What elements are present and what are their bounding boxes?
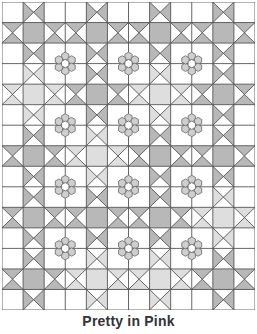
- star-point-bottom: [234, 218, 255, 228]
- star-point-left: [213, 43, 224, 64]
- star-point-top: [129, 23, 150, 33]
- star-point-top: [234, 146, 255, 156]
- star-point-top: [171, 84, 192, 94]
- star-point-left: [23, 125, 34, 146]
- star-point-right: [160, 64, 171, 85]
- sash-intersection-square: [23, 269, 44, 290]
- star-point-left: [150, 64, 161, 85]
- star-point-right: [223, 187, 234, 208]
- star-point-top: [44, 84, 65, 94]
- star-point-bottom: [2, 156, 23, 166]
- star-point-right: [97, 228, 108, 249]
- star-point-top: [65, 84, 86, 94]
- sash-intersection-square: [86, 269, 107, 290]
- hexagon-flower-center: [125, 59, 132, 67]
- star-point-bottom: [129, 218, 150, 228]
- hexagon-flower-center: [62, 244, 69, 252]
- star-point-left: [213, 228, 224, 249]
- star-point-right: [160, 125, 171, 146]
- star-point-top: [129, 269, 150, 279]
- star-point-bottom: [129, 156, 150, 166]
- star-point-left: [86, 43, 97, 64]
- star-point-right: [160, 289, 171, 310]
- hexagon-flower-center: [125, 183, 132, 191]
- star-point-left: [150, 43, 161, 64]
- star-point-top: [171, 207, 192, 217]
- star-point-bottom: [171, 94, 192, 104]
- star-point-top: [192, 84, 213, 94]
- sash-intersection-square: [86, 146, 107, 167]
- star-point-top: [2, 23, 23, 33]
- star-point-left: [86, 248, 97, 269]
- star-point-left: [23, 289, 34, 310]
- star-point-right: [160, 166, 171, 187]
- star-point-right: [97, 248, 108, 269]
- star-point-bottom: [2, 94, 23, 104]
- star-point-bottom: [65, 33, 86, 43]
- star-point-left: [213, 2, 224, 23]
- sash-intersection-square: [23, 207, 44, 228]
- star-point-left: [23, 248, 34, 269]
- star-point-right: [223, 2, 234, 23]
- star-point-top: [107, 23, 128, 33]
- star-point-bottom: [192, 94, 213, 104]
- star-point-left: [213, 248, 224, 269]
- star-point-left: [86, 289, 97, 310]
- hexagon-flower-center: [125, 121, 132, 129]
- sash-intersection-square: [150, 84, 171, 105]
- sash-intersection-square: [23, 84, 44, 105]
- sash-intersection-square: [150, 207, 171, 228]
- star-point-left: [150, 166, 161, 187]
- star-point-top: [129, 207, 150, 217]
- quilt-grid: [2, 2, 255, 310]
- star-point-top: [2, 269, 23, 279]
- star-point-right: [223, 105, 234, 126]
- star-point-bottom: [44, 94, 65, 104]
- star-point-bottom: [171, 33, 192, 43]
- star-point-top: [44, 207, 65, 217]
- star-point-bottom: [192, 33, 213, 43]
- star-point-right: [160, 2, 171, 23]
- star-point-left: [86, 125, 97, 146]
- star-point-top: [192, 207, 213, 217]
- star-point-right: [34, 125, 45, 146]
- star-point-left: [86, 187, 97, 208]
- star-point-right: [97, 166, 108, 187]
- star-point-right: [97, 64, 108, 85]
- star-point-right: [34, 166, 45, 187]
- star-point-left: [23, 2, 34, 23]
- star-point-right: [34, 43, 45, 64]
- star-point-right: [223, 248, 234, 269]
- star-point-left: [86, 64, 97, 85]
- star-point-bottom: [65, 94, 86, 104]
- sash-intersection-square: [213, 207, 234, 228]
- star-point-left: [23, 187, 34, 208]
- star-point-right: [34, 228, 45, 249]
- star-point-top: [2, 207, 23, 217]
- star-point-left: [86, 228, 97, 249]
- star-point-top: [44, 146, 65, 156]
- star-point-right: [223, 228, 234, 249]
- star-point-bottom: [107, 94, 128, 104]
- star-point-bottom: [234, 94, 255, 104]
- star-point-left: [23, 64, 34, 85]
- star-point-left: [213, 64, 224, 85]
- star-point-left: [213, 187, 224, 208]
- star-point-left: [23, 228, 34, 249]
- star-point-left: [150, 105, 161, 126]
- star-point-right: [160, 248, 171, 269]
- star-point-top: [65, 146, 86, 156]
- star-point-left: [23, 43, 34, 64]
- star-point-bottom: [65, 279, 86, 289]
- star-point-left: [23, 166, 34, 187]
- star-point-top: [65, 207, 86, 217]
- star-point-top: [129, 146, 150, 156]
- star-point-bottom: [65, 156, 86, 166]
- quilt-pattern: [2, 2, 255, 310]
- star-point-bottom: [234, 279, 255, 289]
- star-point-top: [107, 84, 128, 94]
- star-point-top: [234, 269, 255, 279]
- star-point-top: [234, 84, 255, 94]
- star-point-top: [192, 23, 213, 33]
- star-point-right: [97, 105, 108, 126]
